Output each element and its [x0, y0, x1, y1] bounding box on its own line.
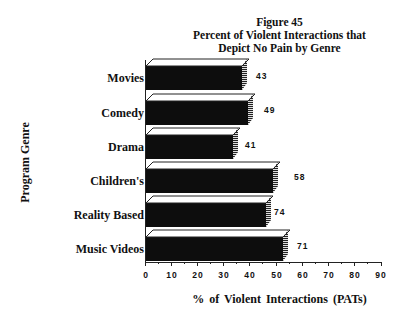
x-tick-label: 80	[345, 270, 365, 280]
x-tick-label: 70	[319, 270, 339, 280]
x-tick-label: 60	[293, 270, 313, 280]
data-label: 58	[294, 172, 305, 182]
data-label: 41	[245, 140, 256, 150]
data-label: 43	[256, 71, 267, 81]
x-axis-label: % of Violent Interactions (PATs)	[150, 292, 409, 307]
x-tick-label: 40	[240, 270, 260, 280]
x-tick-label: 20	[188, 270, 208, 280]
data-label: 74	[274, 207, 285, 217]
x-axis	[145, 262, 382, 263]
x-tick-label: 10	[162, 270, 182, 280]
data-label: 49	[264, 105, 275, 115]
x-tick-label: 0	[136, 270, 156, 280]
data-label: 71	[297, 241, 308, 251]
x-tick-label: 50	[267, 270, 287, 280]
x-tick-label: 90	[371, 270, 391, 280]
x-tick-label: 30	[214, 270, 234, 280]
